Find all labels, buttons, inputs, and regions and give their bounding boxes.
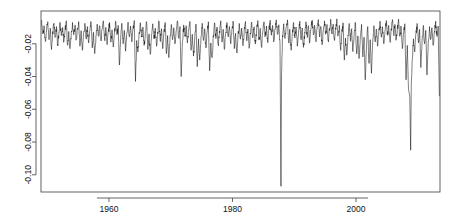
y-axis-tick-label: -0.10 [23,165,33,185]
y-axis-tick-label: -0.04 [23,67,33,87]
x-axis-tick-label: 2000 [347,204,366,214]
timeseries-plot: -0.02-0.04-0.06-0.08-0.10 196019802000 [0,0,470,224]
x-axis-tick-label: 1980 [223,204,242,214]
y-axis-tick-label: -0.02 [23,34,33,54]
y-axis-tick-label: -0.08 [23,132,33,152]
y-axis-tick-label: -0.06 [23,99,33,119]
x-axis-tick-label: 1960 [99,204,118,214]
chart-figure: -0.02-0.04-0.06-0.08-0.10 196019802000 [0,0,470,224]
